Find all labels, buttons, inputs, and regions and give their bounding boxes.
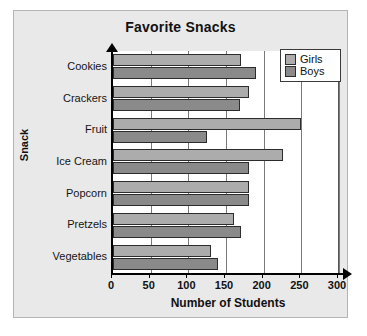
- x-tick-mark: [262, 273, 263, 278]
- bar-vegetables-girls: [113, 245, 211, 257]
- legend-label-boys: Boys: [300, 66, 324, 77]
- legend-swatch-boys: [285, 66, 296, 77]
- legend-swatch-girls: [285, 54, 296, 65]
- gridline: [339, 51, 340, 273]
- x-tick-label: 0: [108, 279, 114, 291]
- x-tick-label: 300: [328, 279, 346, 291]
- x-tick-mark: [111, 273, 112, 278]
- legend-item-boys: Boys: [285, 66, 336, 77]
- bar-vegetables-boys: [113, 258, 218, 270]
- y-axis-title: Snack: [18, 129, 30, 161]
- chart-title: Favorite Snacks: [14, 19, 347, 35]
- x-axis-title: Number of Students: [111, 296, 345, 310]
- category-label-cookies: Cookies: [67, 61, 107, 72]
- x-tick-mark: [149, 273, 150, 278]
- category-label-crackers: Crackers: [63, 93, 107, 104]
- chart-panel: Favorite Snacks Snack CookiesCrackersFru…: [13, 10, 348, 318]
- bar-group: Fruit: [113, 114, 339, 146]
- chart-legend: GirlsBoys: [280, 49, 341, 82]
- x-axis-line: [111, 273, 345, 275]
- bar-pretzels-girls: [113, 213, 234, 225]
- category-label-ice-cream: Ice Cream: [56, 156, 107, 167]
- bar-fruit-girls: [113, 118, 301, 130]
- bar-group: Pretzels: [113, 210, 339, 242]
- x-tick-label: 200: [252, 279, 270, 291]
- x-tick-label: 100: [177, 279, 195, 291]
- bar-crackers-girls: [113, 86, 249, 98]
- x-tick-label: 150: [215, 279, 233, 291]
- bar-group: Crackers: [113, 83, 339, 115]
- x-tick-label: 250: [290, 279, 308, 291]
- category-label-popcorn: Popcorn: [66, 188, 107, 199]
- legend-label-girls: Girls: [300, 54, 323, 65]
- bar-fruit-boys: [113, 131, 207, 143]
- plot-area: CookiesCrackersFruitIce CreamPopcornPret…: [111, 51, 339, 273]
- category-label-vegetables: Vegetables: [53, 251, 107, 262]
- category-label-pretzels: Pretzels: [67, 219, 107, 230]
- x-tick-mark: [337, 273, 338, 278]
- legend-item-girls: Girls: [285, 54, 336, 65]
- category-label-fruit: Fruit: [85, 124, 107, 135]
- y-axis-arrow-icon: [106, 43, 118, 52]
- x-tick-mark: [224, 273, 225, 278]
- x-tick-mark: [186, 273, 187, 278]
- bar-group: Popcorn: [113, 178, 339, 210]
- bar-crackers-boys: [113, 99, 240, 111]
- bar-popcorn-girls: [113, 181, 249, 193]
- x-tick-label: 50: [143, 279, 155, 291]
- bar-pretzels-boys: [113, 226, 241, 238]
- bar-ice-cream-boys: [113, 162, 249, 174]
- x-tick-mark: [299, 273, 300, 278]
- bar-ice-cream-girls: [113, 149, 283, 161]
- bar-cookies-boys: [113, 67, 256, 79]
- bar-group: Vegetables: [113, 241, 339, 273]
- bar-cookies-girls: [113, 54, 241, 66]
- bar-group: Ice Cream: [113, 146, 339, 178]
- bar-popcorn-boys: [113, 194, 249, 206]
